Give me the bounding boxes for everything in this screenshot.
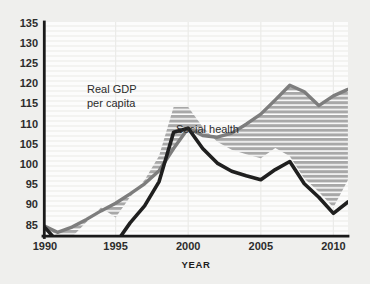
chart-container: 135 130 125 120 115 110 105 100 95 90 85… [0, 0, 370, 284]
y-tick-95: 95 [26, 178, 38, 190]
social-health-label: Social health [176, 123, 239, 135]
x-tick-2005: 2005 [249, 240, 273, 252]
y-tick-125: 125 [20, 57, 38, 69]
gdp-label-line-1: Real GDP [87, 83, 137, 95]
x-axis-title: YEAR [182, 259, 211, 270]
y-tick-90: 90 [26, 198, 38, 210]
x-tick-2010: 2010 [321, 240, 345, 252]
x-tick-1995: 1995 [103, 240, 127, 252]
gdp-vs-social-health-chart: 135 130 125 120 115 110 105 100 95 90 85… [0, 0, 370, 284]
y-tick-85: 85 [26, 219, 38, 231]
y-tick-115: 115 [20, 97, 38, 109]
y-tick-105: 105 [20, 138, 38, 150]
y-tick-100: 100 [20, 158, 38, 170]
y-tick-120: 120 [20, 77, 38, 89]
x-tick-2000: 2000 [176, 240, 200, 252]
y-tick-110: 110 [20, 118, 38, 130]
y-tick-130: 130 [20, 37, 38, 49]
x-tick-1990: 1990 [33, 240, 57, 252]
y-tick-135: 135 [20, 17, 38, 29]
gdp-label-line-2: per capita [87, 97, 136, 109]
